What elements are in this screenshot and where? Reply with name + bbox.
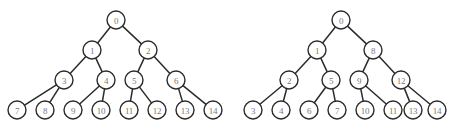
tree-edge (283, 89, 286, 102)
tree-edge (333, 89, 335, 101)
tree-edge (314, 87, 325, 102)
tree-edge (130, 89, 132, 101)
tree-node[interactable]: 12 (148, 101, 166, 119)
binary-tree-figure: 0123456789101112131401825912346710111314 (0, 0, 457, 127)
tree-node[interactable]: 6 (300, 101, 318, 119)
tree-node[interactable]: 1 (308, 41, 326, 59)
tree-node[interactable]: 10 (92, 101, 110, 119)
tree-node[interactable]: 9 (64, 101, 82, 119)
tree-node-label: 1 (90, 46, 94, 56)
tree-node[interactable]: 1 (83, 41, 101, 59)
tree-node[interactable]: 7 (328, 101, 346, 119)
tree-node[interactable]: 5 (322, 71, 340, 89)
tree-node[interactable]: 7 (8, 101, 26, 119)
tree-node[interactable]: 10 (356, 101, 374, 119)
tree-node-label: 2 (146, 46, 150, 56)
tree-edge (323, 27, 336, 43)
tree-node[interactable]: 6 (167, 71, 185, 89)
tree-node-label: 13 (409, 106, 418, 116)
tree-edge (70, 57, 86, 74)
tree-node-label: 10 (361, 106, 370, 116)
tree-edge (154, 57, 170, 74)
tree-edges-right-tree (260, 26, 430, 104)
tree-node[interactable]: 8 (364, 41, 382, 59)
tree-node[interactable]: 0 (107, 11, 125, 29)
tree-edge (363, 58, 369, 72)
tree-nodes-left-tree: 01234567891011121314 (8, 11, 222, 119)
tree-node[interactable]: 9 (350, 71, 368, 89)
tree-node[interactable]: 3 (55, 71, 73, 89)
tree-node-label: 10 (97, 106, 106, 116)
tree-node-label: 11 (389, 106, 397, 116)
tree-node[interactable]: 11 (384, 101, 402, 119)
tree-edge (295, 57, 311, 74)
tree-edge (138, 58, 144, 72)
tree-node[interactable]: 4 (97, 71, 115, 89)
tree-node[interactable]: 11 (120, 101, 138, 119)
tree-node[interactable]: 2 (280, 71, 298, 89)
tree-edge (98, 27, 111, 43)
tree-nodes-right-tree: 01825912346710111314 (244, 11, 446, 119)
tree-node[interactable]: 0 (332, 11, 350, 29)
tree-edge (102, 89, 104, 101)
tree-node[interactable]: 12 (392, 71, 410, 89)
tree-node[interactable]: 13 (404, 101, 422, 119)
tree-edge (404, 88, 409, 101)
tree-node-label: 13 (181, 106, 190, 116)
tree-node-label: 14 (433, 106, 442, 116)
tree-node-label: 12 (397, 76, 405, 86)
tree-edge (361, 89, 363, 101)
tree-node-label: 14 (209, 106, 218, 116)
tree-edge (96, 58, 102, 72)
tree-node[interactable]: 8 (36, 101, 54, 119)
tree-node-label: 11 (125, 106, 133, 116)
tree-node-label: 1 (315, 46, 319, 56)
tree-node[interactable]: 4 (272, 101, 290, 119)
tree-edge (139, 87, 151, 103)
tree-node[interactable]: 14 (204, 101, 222, 119)
tree-edges-left-tree (25, 26, 206, 105)
tree-edge (321, 58, 327, 72)
tree-edge (379, 57, 395, 74)
tree-diagram-canvas: 0123456789101112131401825912346710111314 (0, 0, 457, 127)
tree-edge (80, 86, 100, 104)
tree-edge (50, 88, 59, 103)
edges-layer (25, 26, 431, 105)
tree-node[interactable]: 5 (125, 71, 143, 89)
tree-node[interactable]: 13 (176, 101, 194, 119)
tree-node-label: 2 (287, 76, 291, 86)
tree-node[interactable]: 14 (428, 101, 446, 119)
tree-node-label: 12 (153, 106, 161, 116)
tree-edge (123, 26, 142, 44)
tree-edge (348, 26, 367, 44)
tree-node[interactable]: 2 (139, 41, 157, 59)
tree-edge (179, 89, 183, 102)
nodes-layer: 0123456789101112131401825912346710111314 (8, 11, 446, 119)
tree-node[interactable]: 3 (244, 101, 262, 119)
